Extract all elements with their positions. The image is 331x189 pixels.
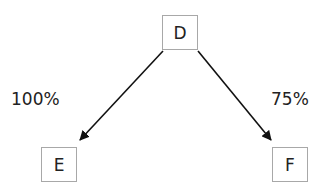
node-d: D [162,15,198,50]
node-e: E [41,147,77,182]
edge-label-d-e: 100% [11,89,60,109]
node-e-label: E [54,155,65,175]
node-f: F [272,147,308,182]
node-d-label: D [173,23,186,43]
arrow-d-to-e [80,51,163,140]
node-f-label: F [285,155,295,175]
arrow-d-to-f [198,51,271,140]
edge-label-d-f: 75% [271,89,309,109]
